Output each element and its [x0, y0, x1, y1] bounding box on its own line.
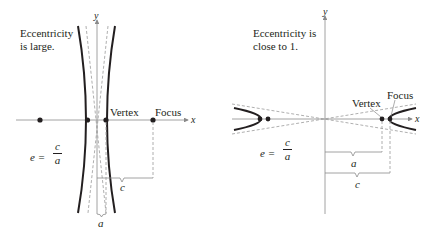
- left-formula-numerator: c: [55, 141, 60, 152]
- left-brace-c-label: c: [120, 181, 125, 193]
- right-brace-a-label: a: [351, 157, 357, 169]
- right-y-axis-label: y: [323, 6, 327, 18]
- left-formula-fraction: c a: [53, 141, 62, 166]
- left-formula-lhs: e =: [30, 151, 45, 163]
- right-caption-line1: Eccentricity is: [253, 27, 316, 39]
- left-focus-point: [37, 117, 42, 122]
- left-caption-line1: Eccentricity: [20, 27, 73, 39]
- left-focus-label: Focus: [155, 106, 181, 118]
- vertex-leader: [370, 108, 381, 117]
- right-formula-denominator: a: [285, 151, 291, 162]
- brace-a: [325, 152, 382, 156]
- left-vertex-point: [85, 117, 90, 122]
- focus-point: [150, 117, 155, 122]
- right-caption-line2: close to 1.: [253, 40, 298, 52]
- right-formula-fraction: c a: [283, 137, 292, 162]
- right-focus-label: Focus: [387, 89, 413, 101]
- right-formula-numerator: c: [285, 137, 290, 148]
- focus-point: [388, 117, 393, 122]
- left-vertex-label: Vertex: [110, 106, 139, 118]
- right-vertex-label: Vertex: [352, 97, 381, 109]
- left-brace-a-label: a: [98, 217, 104, 229]
- right-vertex-point: [103, 117, 108, 122]
- left-focus-point: [258, 117, 263, 122]
- left-y-axis-label: y: [94, 10, 98, 22]
- left-caption-line2: is large.: [20, 40, 55, 52]
- brace-c: [325, 173, 390, 177]
- left-formula-denominator: a: [55, 155, 61, 166]
- brace-c: [97, 178, 153, 182]
- right-brace-c-label: c: [355, 178, 360, 190]
- right-formula-lhs: e =: [260, 147, 275, 159]
- left-vertex-point: [266, 117, 271, 122]
- left-x-axis-label: x: [191, 114, 195, 126]
- vertex-point: [380, 117, 385, 122]
- hyperbola-left-branch: [78, 26, 86, 213]
- right-x-axis-label: x: [415, 113, 419, 125]
